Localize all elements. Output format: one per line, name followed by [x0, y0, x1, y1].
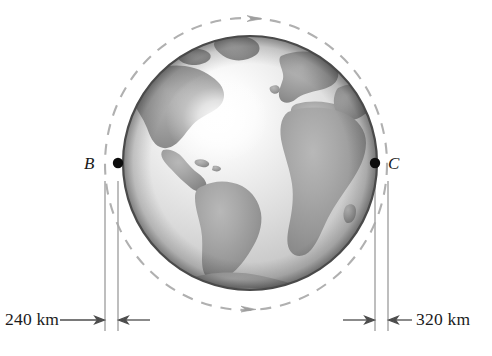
orbit-arrow-top — [247, 16, 262, 22]
point-b-dot — [113, 158, 123, 168]
dim-arrow-right-outer — [389, 316, 413, 323]
dim-arrow-left-outer — [60, 316, 105, 323]
point-c-dot — [370, 158, 380, 168]
dimension-arrows — [60, 316, 412, 323]
diagram-canvas — [0, 0, 492, 356]
figure-caption-cropped — [150, 349, 350, 356]
right-altitude-label: 320 km — [416, 311, 470, 329]
left-altitude-label: 240 km — [5, 311, 59, 329]
orbital-diagram-figure: B C 240 km 320 km — [0, 0, 492, 356]
dim-arrow-right-inner — [343, 316, 375, 323]
dim-arrow-left-inner — [119, 316, 151, 323]
specular-highlight — [166, 72, 270, 164]
earth-globe — [123, 36, 377, 294]
point-c-label: C — [388, 155, 399, 172]
point-b-label: B — [84, 155, 94, 172]
